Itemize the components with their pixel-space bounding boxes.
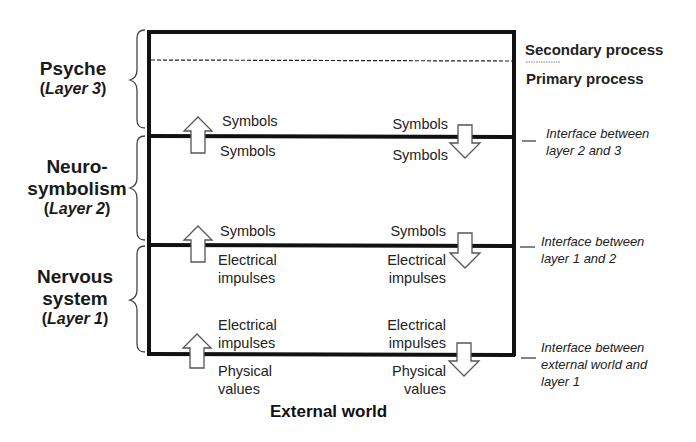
flow-text: Electricalimpulses (370, 316, 446, 352)
flow-text: Symbols (222, 112, 278, 130)
flow-text: Symbols (220, 142, 276, 160)
brace-layer3 (130, 30, 145, 128)
layer2-label: Neuro- symbolism (Layer 2) (22, 156, 132, 218)
layer3-label: Psyche (Layer 3) (28, 58, 118, 98)
flow-text: Electricalimpulses (370, 251, 446, 287)
flow-text: Physicalvalues (218, 362, 272, 398)
down-arrow-icon (450, 233, 480, 268)
layer1-name-1: Nervous (30, 266, 120, 288)
layer2-name-2: symbolism (22, 178, 132, 200)
secondary-process-label: Secondary process (525, 41, 663, 58)
brace-layer1 (130, 246, 145, 352)
layer1-sub: (Layer 1) (30, 310, 120, 328)
layer1-label: Nervous system (Layer 1) (30, 266, 120, 328)
flow-text: Electricalimpulses (218, 251, 277, 287)
flow-text: Symbols (370, 222, 446, 240)
primary-process-label: Primary process (526, 70, 644, 87)
down-arrow-icon (450, 125, 480, 158)
layer3-sub: (Layer 3) (28, 80, 118, 98)
layer2-name-1: Neuro- (22, 156, 132, 178)
layer2-sub: (Layer 2) (22, 200, 132, 218)
layer1-name-2: system (30, 288, 120, 310)
brace-layer2 (130, 136, 145, 240)
flow-text: Electricalimpulses (218, 316, 277, 352)
flow-text: Symbols (370, 115, 448, 133)
flow-text: Symbols (220, 222, 276, 240)
external-world-label: External world (270, 402, 387, 422)
layer3-name: Psyche (28, 58, 118, 80)
up-arrow-icon (183, 334, 211, 368)
flow-text: Physicalvalues (370, 362, 446, 398)
dashed-divider (151, 60, 512, 61)
flow-text: Symbols (370, 146, 448, 164)
interface-2-3-label: Interface betweenlayer 2 and 3 (546, 125, 649, 159)
interface-1-2-label: Interface betweenlayer 1 and 2 (541, 233, 644, 267)
down-arrow-icon (449, 343, 479, 376)
interface-0-1-label: Interface betweenexternal world andlayer… (541, 339, 647, 390)
